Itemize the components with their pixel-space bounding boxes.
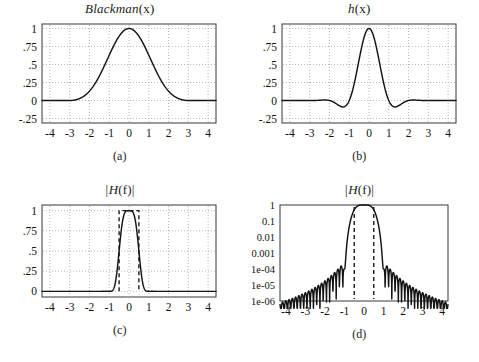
panel-a-title: Blackman(x) (0, 1, 240, 17)
y-axis-tick-label: 1 (271, 23, 277, 35)
x-axis-tick-label: -3 (65, 301, 75, 313)
panel-c-svg: 1.75.5.250-4-3-2-101234 (8, 201, 222, 315)
panel-d-title: |H(f)| (240, 182, 479, 198)
x-axis-tick-label: -4 (285, 127, 295, 139)
y-axis-tick-label: 0.1 (261, 216, 274, 227)
y-axis-tick-label: .75 (23, 41, 38, 53)
x-axis-tick-label: -4 (281, 305, 291, 317)
panel-c-title-arg: (f)| (118, 182, 134, 197)
x-axis-tick-label: 1 (146, 301, 152, 313)
x-axis-tick-label: 0 (126, 127, 132, 139)
x-axis-tick-label: -2 (324, 127, 334, 139)
y-axis-tick-label: 1 (31, 205, 37, 217)
y-axis-tick-label: 1e-05 (251, 280, 275, 291)
y-axis-tick-label: .5 (28, 59, 37, 71)
x-axis-tick-label: 1 (146, 127, 152, 139)
panel-a-title-arg: (x) (139, 1, 155, 16)
panel-b-title-arg: (x) (355, 1, 371, 16)
x-axis-tick-label: -2 (85, 301, 95, 313)
panel-b-svg: 1.75.5.250-.25-4-3-2-101234 (248, 20, 462, 141)
x-axis-tick-label: -4 (45, 301, 55, 313)
y-axis-tick-label: 0 (271, 95, 277, 107)
panel-b: h(x) 1.75.5.250-.25-4-3-2-101234 (b) (240, 0, 479, 181)
x-axis-tick-label: 4 (445, 127, 451, 139)
x-axis-tick-label: 2 (400, 305, 406, 317)
panel-a: Blackman(x) 1.75.5.250-.25-4-3-2-101234 … (0, 0, 240, 181)
x-axis-tick-label: -3 (300, 305, 310, 317)
figure-panel-grid: Blackman(x) 1.75.5.250-.25-4-3-2-101234 … (0, 0, 479, 362)
x-axis-tick-label: 0 (366, 127, 372, 139)
panel-c-caption: (c) (0, 323, 240, 338)
x-axis-tick-label: -1 (339, 305, 349, 317)
x-axis-tick-label: 0 (126, 301, 132, 313)
y-axis-tick-label: .25 (262, 77, 277, 89)
y-axis-tick-label: 0 (31, 285, 37, 297)
y-axis-tick-label: .75 (262, 41, 277, 53)
plot-frame (280, 205, 448, 301)
y-axis-tick-label: 0.001 (251, 248, 275, 259)
panel-b-title-main: h (348, 1, 355, 16)
x-axis-tick-label: -3 (304, 127, 314, 139)
y-axis-tick-label: .75 (23, 225, 38, 237)
panel-b-title: h(x) (240, 1, 479, 17)
y-axis-tick-label: 0.01 (256, 232, 274, 243)
panel-d-title-main: |H (344, 182, 357, 197)
x-axis-tick-label: 3 (425, 127, 431, 139)
panel-d-svg: 10.10.010.0011e-041e-051e-06-4-3-2-10123… (234, 201, 454, 319)
x-axis-tick-label: 3 (185, 301, 191, 313)
y-axis-tick-label: .5 (28, 245, 37, 257)
x-axis-tick-label: -4 (45, 127, 55, 139)
x-axis-tick-label: 3 (185, 127, 191, 139)
y-axis-tick-label: .25 (23, 265, 38, 277)
y-axis-tick-label: 1e-06 (251, 296, 275, 307)
y-axis-tick-label: 1e-04 (251, 264, 276, 275)
x-axis-tick-label: 1 (385, 127, 391, 139)
x-axis-tick-label: 2 (166, 301, 172, 313)
y-axis-tick-label: 1 (31, 23, 37, 35)
x-axis-tick-label: -3 (65, 127, 75, 139)
panel-d-plot: 10.10.010.0011e-041e-051e-06-4-3-2-10123… (234, 201, 454, 319)
panel-b-plot: 1.75.5.250-.25-4-3-2-101234 (248, 20, 462, 141)
panel-a-title-main: Blackman (85, 1, 139, 16)
x-axis-tick-label: 4 (205, 127, 211, 139)
panel-c: |H(f)| 1.75.5.250-4-3-2-101234 (c) (0, 181, 240, 362)
x-axis-tick-label: 2 (166, 127, 172, 139)
y-axis-tick-label: -.25 (19, 113, 37, 125)
y-axis-tick-label: .5 (268, 59, 277, 71)
panel-d: |H(f)| 10.10.010.0011e-041e-051e-06-4-3-… (240, 181, 479, 362)
y-axis-tick-label: 0 (31, 95, 37, 107)
x-axis-tick-label: -1 (344, 127, 354, 139)
panel-a-svg: 1.75.5.250-.25-4-3-2-101234 (8, 20, 222, 141)
x-axis-tick-label: 2 (405, 127, 411, 139)
y-axis-tick-label: -.25 (258, 113, 276, 125)
x-axis-tick-label: -2 (85, 127, 95, 139)
panel-d-caption: (d) (240, 327, 479, 342)
x-axis-tick-label: 0 (361, 305, 367, 317)
x-axis-tick-label: -2 (320, 305, 330, 317)
panel-c-title: |H(f)| (0, 182, 240, 198)
panel-a-caption: (a) (0, 149, 240, 164)
y-axis-tick-label: .25 (23, 77, 38, 89)
y-axis-tick-label: 1 (269, 200, 274, 211)
x-axis-tick-label: -1 (104, 301, 114, 313)
panel-b-caption: (b) (240, 149, 479, 164)
panel-c-title-main: |H (105, 182, 118, 197)
panel-d-title-arg: (f)| (358, 182, 374, 197)
panel-c-plot: 1.75.5.250-4-3-2-101234 (8, 201, 222, 315)
x-axis-tick-label: 4 (205, 301, 211, 313)
x-axis-tick-label: 1 (380, 305, 386, 317)
panel-a-plot: 1.75.5.250-.25-4-3-2-101234 (8, 20, 222, 141)
x-axis-tick-label: -1 (104, 127, 114, 139)
